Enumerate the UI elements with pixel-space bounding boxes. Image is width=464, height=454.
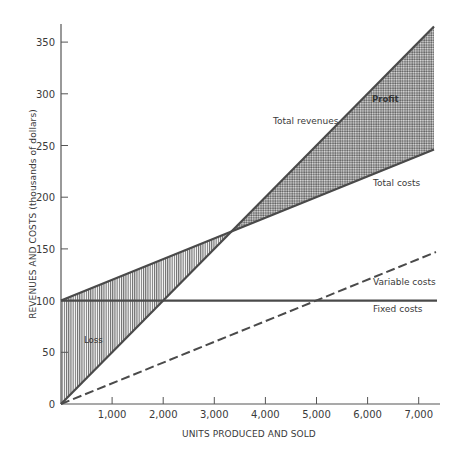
y-tick-label: 350 [36,37,55,48]
variable-costs-label: Variable costs [373,277,436,287]
x-tick-label: 4,000 [251,409,280,420]
x-tick-labels: 1,000 2,000 3,000 4,000 5,000 6,000 7,00… [98,409,433,420]
y-tick-label: 0 [49,399,55,410]
profit-label: Profit [372,94,399,104]
y-tick-labels: 0 50 100 150 200 250 300 350 [36,37,55,410]
y-tick-label: 250 [36,141,55,152]
total-revenues-line [61,27,434,404]
break-even-chart: 0 50 100 150 200 250 300 350 1,000 2,000… [0,0,464,454]
x-tick-label: 3,000 [200,409,229,420]
y-tick-label: 150 [36,244,55,255]
x-axis-title: UNITS PRODUCED AND SOLD [182,429,316,439]
y-tick-label: 300 [36,89,55,100]
total-revenues-label: Total revenues [272,116,339,126]
y-axis-title: REVENUES AND COSTS (thousands of dollars… [28,109,38,319]
x-ticks [112,397,419,404]
x-tick-label: 5,000 [302,409,331,420]
x-tick-label: 7,000 [404,409,433,420]
y-tick-label: 200 [36,192,55,203]
y-tick-label: 50 [42,347,55,358]
total-costs-label: Total costs [372,178,421,188]
x-tick-label: 2,000 [149,409,178,420]
x-tick-label: 6,000 [353,409,382,420]
y-tick-label: 100 [36,296,55,307]
loss-label: Loss [84,335,103,345]
fixed-costs-label: Fixed costs [373,304,423,314]
x-tick-label: 1,000 [98,409,127,420]
